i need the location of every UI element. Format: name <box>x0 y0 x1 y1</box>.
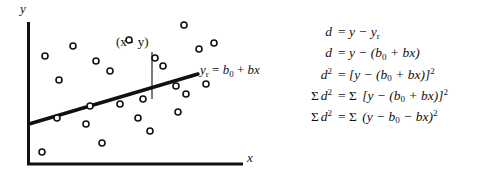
equation-rhs: = y − (b0 + bx) <box>338 45 420 62</box>
regression-label-plus: + <box>237 62 244 77</box>
regression-label-bx: bx <box>247 62 259 77</box>
regression-label-y-sub: r <box>206 69 209 79</box>
scatter-point <box>175 109 181 115</box>
regression-line-label: yr = b0 + bx <box>200 62 260 79</box>
equation-rhs: = y − yr <box>338 24 380 41</box>
eq2-relation: = <box>338 67 346 82</box>
scatter-point <box>54 115 60 121</box>
scatter-point <box>135 115 141 121</box>
scatter-point <box>107 68 113 74</box>
eq4-lhs-sup: 2 <box>328 108 333 118</box>
eq0-rhs-expr: y − y <box>349 24 377 39</box>
equation-list: d = y − yr d = y − (b0 + bx) d2 = [y − (… <box>292 24 492 129</box>
eq0-relation: = <box>338 24 346 39</box>
scatter-point <box>39 149 45 155</box>
scatter-point <box>152 55 158 61</box>
x-axis-label: x <box>247 150 253 166</box>
scatter-point <box>117 101 123 107</box>
scatter-point <box>160 63 166 69</box>
eq1-relation: = <box>338 45 346 60</box>
scatter-point <box>140 96 146 102</box>
eq0-rhs-sub: r <box>377 31 380 41</box>
eq2-rhs-sup: 2 <box>430 66 435 76</box>
equation-row: d2 = [y − (b0 + bx)]2 <box>292 66 492 87</box>
equation-lhs: d <box>292 24 338 40</box>
eq2-rhs-tail: + bx)] <box>392 67 430 82</box>
scatter-point <box>93 58 99 64</box>
equation-rhs: = Σ [y − (b0 + bx)]2 <box>338 87 448 104</box>
eq3-rhs-tail: + bx)] <box>405 88 443 103</box>
eq4-lhs-d: d <box>321 109 328 124</box>
eq3-rhs-sup: 2 <box>443 87 448 97</box>
eq4-rhs-expr: (y − b <box>362 109 395 124</box>
scatter-point <box>183 91 189 97</box>
scatter-point <box>42 53 48 59</box>
eq4-lhs-sigma: Σ <box>311 109 321 124</box>
scatter-point <box>87 103 93 109</box>
equation-lhs: d <box>292 45 338 61</box>
equation-row: d = y − yr <box>292 24 492 45</box>
scatter-point <box>181 22 187 28</box>
regression-label-equals: = <box>212 62 219 77</box>
scatter-point <box>196 46 202 52</box>
scatter-point <box>173 83 179 89</box>
equation-rhs: = [y − (b0 + bx)]2 <box>338 66 435 83</box>
eq3-rhs-expr: [y − (b <box>362 88 400 103</box>
equation-row: d = y − (b0 + bx) <box>292 45 492 66</box>
eq3-lhs-sigma: Σ <box>311 88 321 103</box>
eq4-rhs-tail: − bx) <box>400 109 433 124</box>
eq1-rhs-expr: y − (b <box>349 45 382 60</box>
eq0-lhs-d: d <box>325 24 332 39</box>
regression-label-b-sub: 0 <box>229 69 234 79</box>
y-axis-label: y <box>20 1 26 17</box>
eq1-rhs-tail: + bx) <box>387 45 420 60</box>
equation-lhs: Σd2 <box>292 108 338 125</box>
eq1-lhs-d: d <box>325 45 332 60</box>
eq3-lhs-d: d <box>321 88 328 103</box>
scatter-point <box>99 140 105 146</box>
scatter-point <box>70 43 76 49</box>
equation-row: Σd2 = Σ [y − (b0 + bx)]2 <box>292 87 492 108</box>
scatter-point <box>211 40 217 46</box>
scatter-point <box>147 128 153 134</box>
eq4-rhs-sup: 2 <box>433 108 438 118</box>
eq3-relation: = <box>338 88 346 103</box>
point-coordinate-label: (x · y) <box>116 34 149 50</box>
eq2-lhs-sup: 2 <box>328 66 333 76</box>
equation-lhs: Σd2 <box>292 87 338 104</box>
scatter-point <box>83 121 89 127</box>
scatter-point <box>203 81 209 87</box>
eq4-rhs-sigma: Σ <box>349 109 359 124</box>
eq3-rhs-sigma: Σ <box>349 88 359 103</box>
eq2-lhs-d: d <box>321 67 328 82</box>
eq2-rhs-expr: [y − (b <box>349 67 387 82</box>
eq4-relation: = <box>338 109 346 124</box>
equation-row: Σd2 = Σ (y − b0 − bx)2 <box>292 108 492 129</box>
equation-lhs: d2 <box>292 66 338 83</box>
equation-rhs: = Σ (y − b0 − bx)2 <box>338 108 437 125</box>
scatter-point <box>56 77 62 83</box>
eq3-lhs-sup: 2 <box>328 87 333 97</box>
